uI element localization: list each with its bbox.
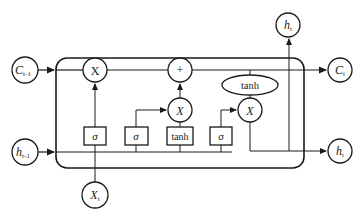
output-multiply-node: X bbox=[238, 98, 262, 122]
hidden-out-top-node: ht bbox=[276, 13, 300, 37]
prev-cell-state-node: Ct-1 bbox=[12, 57, 38, 83]
svg-text:tanh: tanh bbox=[241, 80, 260, 91]
input-x-node: Xt bbox=[82, 182, 108, 208]
svg-text:σ: σ bbox=[218, 130, 224, 142]
svg-text:σ: σ bbox=[133, 130, 139, 142]
svg-text:X: X bbox=[175, 104, 184, 118]
candidate-tanh: tanh bbox=[167, 127, 193, 145]
lstm-diagram: σ σ tanh σ X + X tanh X Ct-1 ht-1 bbox=[0, 0, 361, 217]
cell-tanh-ellipse: tanh bbox=[222, 75, 278, 95]
cell-state-out-node: Ct bbox=[328, 58, 352, 82]
input-multiply-node: X bbox=[168, 98, 192, 122]
svg-text:tanh: tanh bbox=[171, 131, 188, 142]
forget-gate: σ bbox=[84, 127, 106, 145]
add-node: + bbox=[168, 58, 192, 82]
output-gate: σ bbox=[210, 127, 232, 145]
svg-text:+: + bbox=[177, 63, 184, 77]
output-to-hidden bbox=[250, 122, 326, 151]
svg-text:X: X bbox=[91, 64, 100, 78]
hidden-out-right-node: ht bbox=[328, 139, 352, 163]
svg-text:σ: σ bbox=[92, 130, 98, 142]
prev-hidden-node: ht-1 bbox=[12, 139, 38, 165]
forget-multiply-node: X bbox=[83, 58, 107, 82]
svg-text:X: X bbox=[245, 104, 254, 118]
input-gate: σ bbox=[125, 127, 148, 145]
